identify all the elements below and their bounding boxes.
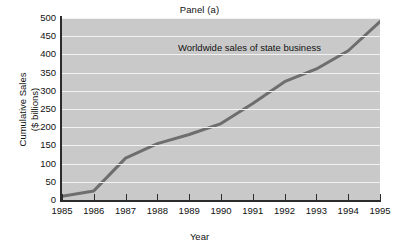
chart-title: Panel (a) [0,4,399,15]
x-axis-tick-labels: 1985198619871988198919901991199219931994… [0,205,399,219]
x-axis-tick [316,194,317,201]
gridline [62,73,380,74]
gridline [62,145,380,146]
y-axis-title-line-2: ($ billions) [28,30,40,190]
x-axis-title: Year [0,231,399,242]
gridline [62,127,380,128]
plot-area: Worldwide sales of state business [62,18,380,200]
gridline [62,164,380,165]
x-axis-tick [126,194,127,201]
x-axis-tick [285,194,286,201]
x-axis-tick [221,194,222,201]
x-axis-tick [253,194,254,201]
x-axis-tick [380,194,381,201]
chart-figure: Panel (a) Worldwide sales of state busin… [0,0,399,252]
x-tick-label: 1995 [360,205,399,216]
gridline [62,18,380,19]
y-axis-title: Cumulative Sales ($ billions) [17,30,40,190]
y-axis-title-line-1: Cumulative Sales [17,30,29,190]
x-axis-tick [62,194,63,201]
x-axis-tick [157,194,158,201]
y-axis-line [60,16,62,202]
gridline [62,36,380,37]
x-axis-tick [94,194,95,201]
gridline [62,109,380,110]
gridline [62,54,380,55]
x-axis-tick [348,194,349,201]
x-axis-tick [189,194,190,201]
gridline [62,182,380,183]
series-annotation-label: Worldwide sales of state business [178,42,321,53]
y-tick-label: 0 [26,195,56,205]
y-tick-label: 500 [26,13,56,23]
gridline [62,91,380,92]
